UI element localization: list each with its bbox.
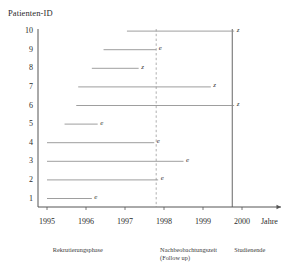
y-tick-label-4: 4 <box>15 138 33 147</box>
x-tick-label-1995: 1995 <box>27 217 67 226</box>
y-tick-label-1: 1 <box>15 194 33 203</box>
endpoint-marker-patient-8: z <box>141 63 144 71</box>
x-tick-label-2000: 2000 <box>222 217 262 226</box>
endpoint-marker-patient-2: e <box>161 174 164 182</box>
endpoint-marker-patient-6: z <box>237 100 240 108</box>
annotation-line-1: Studienende <box>234 246 265 254</box>
x-tick-label-1996: 1996 <box>66 217 106 226</box>
chart-canvas <box>0 0 301 279</box>
y-tick-label-7: 7 <box>15 82 33 91</box>
x-tick-label-1997: 1997 <box>105 217 145 226</box>
endpoint-marker-patient-7: z <box>213 81 216 89</box>
endpoint-marker-patient-3: e <box>186 156 189 164</box>
endpoint-marker-patient-4: e <box>157 137 160 145</box>
y-tick-label-8: 8 <box>15 63 33 72</box>
endpoint-marker-patient-5: e <box>100 119 103 127</box>
chart-container: Patienten-ID 10987654321 199519961997199… <box>0 0 301 279</box>
y-tick-label-2: 2 <box>15 175 33 184</box>
annotation-study-end-label: Studienende <box>234 246 265 254</box>
x-axis-arrow <box>277 205 282 209</box>
x-axis-title: Jahre <box>261 217 278 226</box>
endpoint-marker-patient-10: z <box>237 26 240 34</box>
y-tick-label-10: 10 <box>15 26 33 35</box>
annotation-line-1: Rekrutierungsphase <box>53 246 103 254</box>
endpoint-marker-patient-1: e <box>94 193 97 201</box>
annotation-recruitment-phase: Rekrutierungsphase <box>53 246 103 254</box>
y-tick-label-9: 9 <box>15 45 33 54</box>
x-tick-label-1998: 1998 <box>144 217 184 226</box>
x-tick-label-1999: 1999 <box>183 217 223 226</box>
y-tick-label-3: 3 <box>15 156 33 165</box>
endpoint-marker-patient-9: e <box>159 44 162 52</box>
annotation-follow-up-period: Nachbeobachtungszeit(Follow up) <box>160 246 217 262</box>
y-tick-label-6: 6 <box>15 101 33 110</box>
annotation-line-2: (Follow up) <box>160 254 217 262</box>
y-tick-label-5: 5 <box>15 119 33 128</box>
annotation-line-1: Nachbeobachtungszeit <box>160 246 217 254</box>
